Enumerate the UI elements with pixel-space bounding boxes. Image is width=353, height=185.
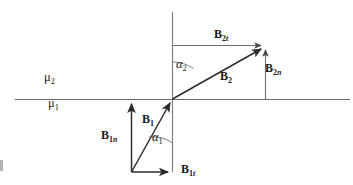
vector-label-b1t: B1t [181, 163, 195, 175]
b2-vector [173, 49, 262, 99]
figure-edge-mark [0, 160, 3, 171]
vector-diagram [0, 0, 353, 185]
vector-label-b2n: B2n [265, 62, 281, 74]
vector-label-b1n: B1n [101, 129, 117, 141]
vector-label-b2: B2 [220, 70, 232, 82]
media-label-mu1: μ1 [48, 97, 59, 110]
vector-label-b1: B1 [142, 113, 154, 125]
vector-label-b2t: B2t [214, 28, 228, 40]
angle-label-alpha2: α2 [176, 58, 187, 71]
figure-canvas: μ2 μ1 α2 α1 B2t B2n B2 B1 B1n B1t [0, 0, 353, 185]
angle-label-alpha1: α1 [152, 131, 163, 144]
media-label-mu2: μ2 [44, 71, 55, 84]
